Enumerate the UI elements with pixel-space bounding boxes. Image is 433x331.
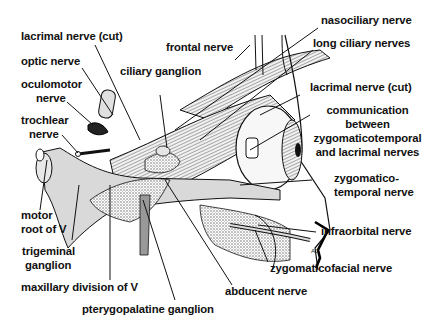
label-communication-line3: zygomaticotemporal xyxy=(302,132,433,145)
label-nasociliary-nerve: nasociliary nerve xyxy=(321,14,412,27)
label-ciliary-ganglion: ciliary ganglion xyxy=(120,65,201,78)
label-lacrimal-nerve-cut-right: lacrimal nerve (cut) xyxy=(310,81,412,94)
label-lacrimal-nerve-cut-left: lacrimal nerve (cut) xyxy=(21,30,123,43)
label-oculomotor-nerve-line2: nerve xyxy=(36,92,66,105)
label-communication-line2: between xyxy=(302,118,433,131)
label-maxillary-division: maxillary division of V xyxy=(21,281,138,294)
label-trochlear-nerve-line1: trochlear xyxy=(21,114,68,127)
label-communication-line1: communication xyxy=(302,104,433,117)
oculomotor-dark xyxy=(88,123,108,135)
label-communication-line4: and lacrimal nerves xyxy=(302,146,433,159)
orbit-nerves-diagram: lacrimal nerve (cut) optic nerve oculomo… xyxy=(0,0,433,331)
label-zygomaticotemporal-nerve-line1: zygomatico- xyxy=(334,172,399,185)
label-pterygopalatine-ganglion: pterygopalatine ganglion xyxy=(82,303,214,316)
label-long-ciliary-nerves: long ciliary nerves xyxy=(313,37,410,50)
label-trigeminal-ganglion-line2: ganglion xyxy=(25,259,71,272)
label-zygomaticofacial-nerve: zygomaticofacial nerve xyxy=(270,262,392,275)
label-abducent-nerve: abducent nerve xyxy=(225,285,307,298)
label-motor-root-line1: motor xyxy=(21,209,53,222)
label-trochlear-nerve-line2: nerve xyxy=(29,128,59,141)
label-motor-root-line2: root of V xyxy=(21,223,67,236)
label-trigeminal-ganglion-line1: trigeminal xyxy=(22,245,75,258)
label-oculomotor-nerve-line1: oculomotor xyxy=(21,78,82,91)
ciliary-ganglion-shape xyxy=(156,146,170,156)
label-optic-nerve: optic nerve xyxy=(21,55,80,68)
label-frontal-nerve: frontal nerve xyxy=(166,41,233,54)
trochlear xyxy=(78,150,110,154)
label-infraorbital-nerve: infraorbital nerve xyxy=(321,225,411,238)
label-zygomaticotemporal-nerve-line2: temporal nerve xyxy=(334,186,414,199)
artist-signature: AJ xyxy=(311,248,318,254)
